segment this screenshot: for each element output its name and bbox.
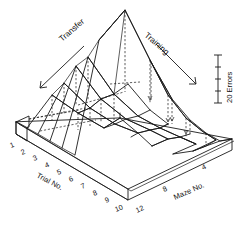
maze-tick-8: 8 xyxy=(161,184,168,194)
trial-tick-5: 5 xyxy=(55,167,62,177)
surface-plot-svg: Transfer Training 20 Errors 1 2 3 4 5 6 … xyxy=(0,0,248,231)
trial-tick-6: 6 xyxy=(67,174,74,184)
trial-tick-1: 1 xyxy=(8,140,15,150)
trial-tick-10: 10 xyxy=(113,203,124,214)
trial-tick-9: 9 xyxy=(103,195,110,205)
maze-tick-4: 4 xyxy=(200,162,207,172)
maze-tick-12: 12 xyxy=(134,203,145,214)
transfer-label: Transfer xyxy=(57,17,86,44)
trial-axis-ticks: 1 2 3 4 5 6 7 8 9 10 Trial No. xyxy=(8,140,124,214)
maze-axis-ticks: 12 8 4 Maze No. xyxy=(134,162,207,215)
figure-3d-error-surface: Transfer Training 20 Errors 1 2 3 4 5 6 … xyxy=(0,0,248,231)
trial-tick-3: 3 xyxy=(31,153,38,163)
trial-tick-7: 7 xyxy=(79,181,86,191)
errors-scale-bar: 20 Errors xyxy=(214,55,234,103)
maze-axis-label: Maze No. xyxy=(172,180,205,201)
trial-tick-8: 8 xyxy=(91,188,98,198)
transfer-annotation: Transfer xyxy=(40,17,86,88)
trial-tick-4: 4 xyxy=(43,160,50,170)
errors-scale-label: 20 Errors xyxy=(225,72,234,103)
trial-tick-2: 2 xyxy=(19,147,26,157)
